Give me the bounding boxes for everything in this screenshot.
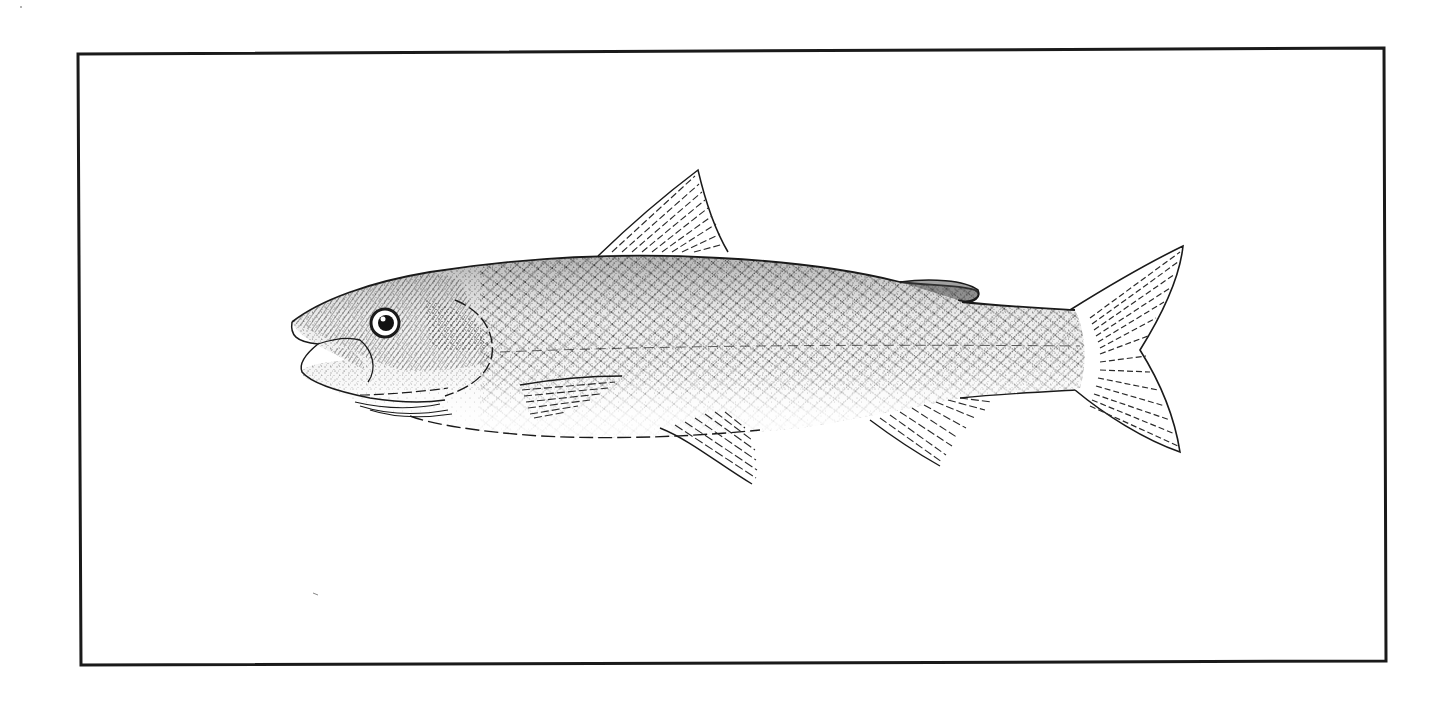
fish-body xyxy=(280,240,1100,460)
fish-illustration xyxy=(0,0,1454,713)
dorsal-fin xyxy=(598,170,728,256)
caudal-fin xyxy=(1070,246,1183,452)
illustration-canvas xyxy=(0,0,1454,713)
eye xyxy=(371,309,399,337)
